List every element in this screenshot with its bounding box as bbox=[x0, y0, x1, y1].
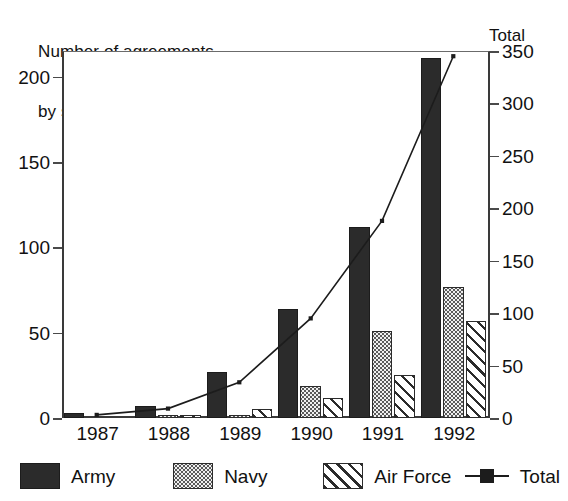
y-axis-tick-mark bbox=[53, 77, 62, 79]
y-axis-tick-label: 0 bbox=[39, 409, 50, 428]
y2-axis-tick-mark bbox=[490, 366, 499, 368]
y-axis-tick-label: 50 bbox=[29, 324, 50, 343]
y-axis-tick-mark bbox=[53, 162, 62, 164]
legend-item-army: Army bbox=[20, 463, 115, 489]
y2-axis-tick-label: 0 bbox=[502, 409, 513, 428]
total-marker-1992 bbox=[451, 54, 455, 58]
y2-axis-tick-mark bbox=[490, 313, 499, 315]
y2-axis-tick-label: 150 bbox=[502, 252, 534, 271]
y2-axis-tick-label: 200 bbox=[502, 199, 534, 218]
legend-swatch-air-force-icon bbox=[323, 463, 363, 489]
y2-axis-tick-mark bbox=[490, 103, 499, 105]
x-axis-label-1989: 1989 bbox=[205, 424, 276, 443]
plot-area bbox=[62, 51, 490, 418]
y2-axis-tick-mark bbox=[490, 261, 499, 263]
legend-label-total: Total bbox=[520, 467, 560, 486]
y2-axis-tick-label: 300 bbox=[502, 94, 534, 113]
y2-axis-tick-mark bbox=[490, 208, 499, 210]
total-marker-1989 bbox=[237, 380, 241, 384]
total-marker-1988 bbox=[166, 407, 170, 411]
y-axis-tick-mark bbox=[53, 333, 62, 335]
y2-axis-tick-label: 50 bbox=[502, 357, 523, 376]
y-axis-tick-mark bbox=[53, 247, 62, 249]
legend-swatch-navy-icon bbox=[173, 463, 213, 489]
legend-swatch-army-icon bbox=[20, 463, 60, 489]
y2-axis-tick-label: 100 bbox=[502, 304, 534, 323]
y2-axis-tick-mark bbox=[490, 51, 499, 53]
legend-total-marker-icon bbox=[480, 469, 494, 483]
y-axis-tick-mark bbox=[53, 418, 62, 420]
y2-axis-tick-mark bbox=[490, 156, 499, 158]
legend-label-army: Army bbox=[71, 467, 115, 486]
y2-axis-tick-label: 350 bbox=[502, 42, 534, 61]
total-marker-1990 bbox=[309, 316, 313, 320]
y-axis-tick-label: 200 bbox=[18, 68, 50, 87]
x-axis-label-1990: 1990 bbox=[276, 424, 347, 443]
legend-swatch-total-icon bbox=[465, 463, 509, 489]
chart-figure: Number of agreements by service Total 05… bbox=[0, 0, 568, 501]
legend-item-navy: Navy bbox=[173, 463, 267, 489]
x-axis-label-1987: 1987 bbox=[62, 424, 133, 443]
x-axis-label-1991: 1991 bbox=[347, 424, 418, 443]
total-marker-1987 bbox=[95, 413, 99, 417]
chart-legend: Army Navy Air Force Total bbox=[20, 458, 560, 494]
legend-item-total: Total bbox=[465, 463, 560, 489]
legend-label-air-force: Air Force bbox=[374, 467, 451, 486]
legend-item-air-force: Air Force bbox=[323, 463, 451, 489]
total-line-path bbox=[97, 56, 454, 415]
legend-label-navy: Navy bbox=[224, 467, 267, 486]
y-axis-tick-label: 100 bbox=[18, 238, 50, 257]
total-marker-1991 bbox=[380, 219, 384, 223]
y2-axis-tick-mark bbox=[490, 418, 499, 420]
y-axis-tick-label: 150 bbox=[18, 153, 50, 172]
total-line-series bbox=[62, 51, 490, 418]
y2-axis-tick-label: 250 bbox=[502, 147, 534, 166]
x-axis-label-1988: 1988 bbox=[133, 424, 204, 443]
x-axis-label-1992: 1992 bbox=[419, 424, 490, 443]
